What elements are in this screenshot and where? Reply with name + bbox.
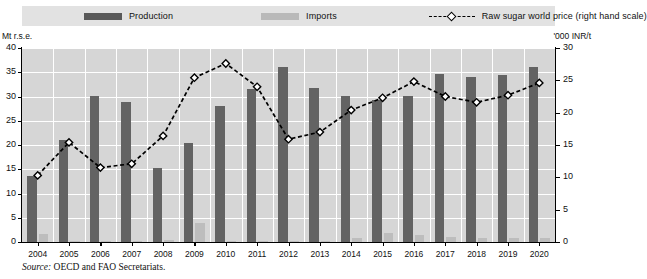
right-axis-tick-label: 15 [563, 139, 579, 149]
source-text: OECD and FAO Secretariats. [51, 262, 165, 272]
left-axis-tick-label: 0 [1, 236, 16, 246]
right-axis-unit-label: '000 INR/t [553, 31, 591, 41]
right-axis-tick-label: 5 [563, 204, 579, 214]
left-axis-tick [18, 169, 22, 170]
x-axis-tick [414, 242, 415, 246]
chart-legend: Production Imports Raw sugar world price… [22, 6, 555, 26]
production-color-swatch [84, 13, 122, 20]
right-axis-tick [556, 210, 560, 211]
source-note: Source: OECD and FAO Secretariats. [22, 262, 165, 272]
left-axis-tick [18, 194, 22, 195]
x-axis-tick [226, 242, 227, 246]
price-marker: 2012: 15.9 [285, 136, 292, 143]
legend-item-imports: Imports [261, 6, 337, 26]
legend-label-imports: Imports [306, 11, 337, 21]
diamond-marker-icon [446, 11, 456, 21]
price-line-swatch [429, 11, 475, 22]
legend-item-production: Production [84, 6, 173, 26]
price-marker: 2014: 20.4 [348, 106, 355, 113]
x-axis-tick [539, 242, 540, 246]
x-axis-tick [508, 242, 509, 246]
x-axis-tick [445, 242, 446, 246]
right-axis-tick [556, 80, 560, 81]
price-line-series: 2004: 10.32005: 15.42006: 11.52007: 12.1… [22, 48, 555, 242]
left-axis-unit-label: Mt r.s.e. [2, 31, 32, 41]
left-axis-tick-label: 15 [1, 163, 16, 173]
price-marker: 2009: 25.4 [191, 74, 198, 81]
left-axis-tick [18, 121, 22, 122]
right-axis-tick-label: 0 [563, 236, 579, 246]
right-axis-tick-label: 20 [563, 107, 579, 117]
legend-label-production: Production [129, 11, 173, 21]
x-axis-tick-label: 2020 [519, 249, 559, 259]
right-axis-tick-label: 10 [563, 171, 579, 181]
price-marker: 2019: 22.7 [504, 92, 511, 99]
x-axis-tick [132, 242, 133, 246]
left-axis-tick [18, 218, 22, 219]
left-axis-tick-label: 35 [1, 66, 16, 76]
legend-item-price: Raw sugar world price (right hand scale) [429, 6, 647, 26]
x-axis-tick [163, 242, 164, 246]
left-axis-tick-label: 40 [1, 42, 16, 52]
left-axis-tick-label: 25 [1, 115, 16, 125]
x-axis-tick [320, 242, 321, 246]
left-axis-tick [18, 242, 22, 243]
x-axis-tick [351, 242, 352, 246]
x-axis-tick [289, 242, 290, 246]
right-axis-tick-label: 30 [563, 42, 579, 52]
left-axis-tick-label: 20 [1, 139, 16, 149]
price-marker: 2016: 24.8 [410, 78, 417, 85]
x-axis-tick [69, 242, 70, 246]
left-axis-tick [18, 145, 22, 146]
right-axis-tick [556, 242, 560, 243]
right-axis-tick-label: 25 [563, 74, 579, 84]
price-marker: 2015: 22.3 [379, 94, 386, 101]
price-marker: 2011: 24 [253, 83, 260, 90]
price-marker: 2010: 27.6 [222, 60, 229, 67]
x-axis-tick [477, 242, 478, 246]
left-axis-tick [18, 97, 22, 98]
price-marker: 2018: 21.6 [473, 99, 480, 106]
x-axis-tick [100, 242, 101, 246]
right-axis-tick [556, 145, 560, 146]
plot-area: 2004: 10.32005: 15.42006: 11.52007: 12.1… [22, 48, 555, 242]
price-marker: 2020: 24.6 [536, 79, 543, 86]
right-axis-tick [556, 177, 560, 178]
right-axis-tick [556, 113, 560, 114]
left-axis-tick-label: 5 [1, 212, 16, 222]
x-axis-tick [194, 242, 195, 246]
x-axis-tick [383, 242, 384, 246]
left-axis-tick-label: 10 [1, 188, 16, 198]
x-axis-tick [257, 242, 258, 246]
price-marker: 2013: 17 [316, 128, 323, 135]
x-axis-tick [38, 242, 39, 246]
left-axis-tick [18, 48, 22, 49]
source-keyword: Source: [22, 262, 51, 272]
imports-color-swatch [261, 13, 299, 20]
legend-label-price: Raw sugar world price (right hand scale) [482, 11, 647, 21]
left-axis-tick [18, 72, 22, 73]
left-axis-tick-label: 30 [1, 91, 16, 101]
price-line-path [38, 64, 540, 176]
right-axis-tick [556, 48, 560, 49]
price-marker: 2017: 22.5 [442, 93, 449, 100]
